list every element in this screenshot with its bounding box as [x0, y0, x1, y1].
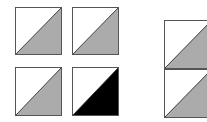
- half-square-triangle-tile: [15, 67, 62, 116]
- half-square-triangle-tile: [164, 20, 207, 69]
- triangle-fill-icon: [165, 70, 207, 117]
- half-square-triangle-tile: [15, 7, 62, 55]
- triangle-fill-icon: [165, 21, 207, 68]
- triangle-fill-icon: [73, 8, 118, 54]
- half-square-triangle-tile: [72, 7, 119, 55]
- half-square-triangle-tile: [72, 67, 119, 116]
- half-square-triangle-tile: [164, 69, 207, 118]
- triangle-fill-icon: [16, 8, 61, 54]
- triangle-fill-icon: [16, 68, 61, 115]
- triangle-fill-icon: [73, 68, 118, 115]
